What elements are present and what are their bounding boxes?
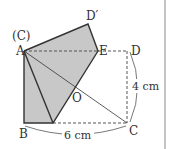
label-height: 4 cm — [132, 80, 160, 93]
label-c-paren: (C) — [12, 29, 31, 43]
label-width: 6 cm — [64, 129, 92, 142]
folded-rectangle-diagram: (C) A B C D D′ E O 4 cm 6 cm — [0, 0, 170, 149]
label-d-prime: D′ — [86, 9, 99, 23]
label-o: O — [72, 91, 82, 105]
label-c: C — [129, 124, 138, 138]
label-b: B — [19, 127, 28, 141]
label-a: A — [15, 44, 25, 58]
shaded-folded-region — [24, 24, 98, 123]
label-d: D — [131, 44, 141, 58]
label-e: E — [99, 44, 108, 58]
